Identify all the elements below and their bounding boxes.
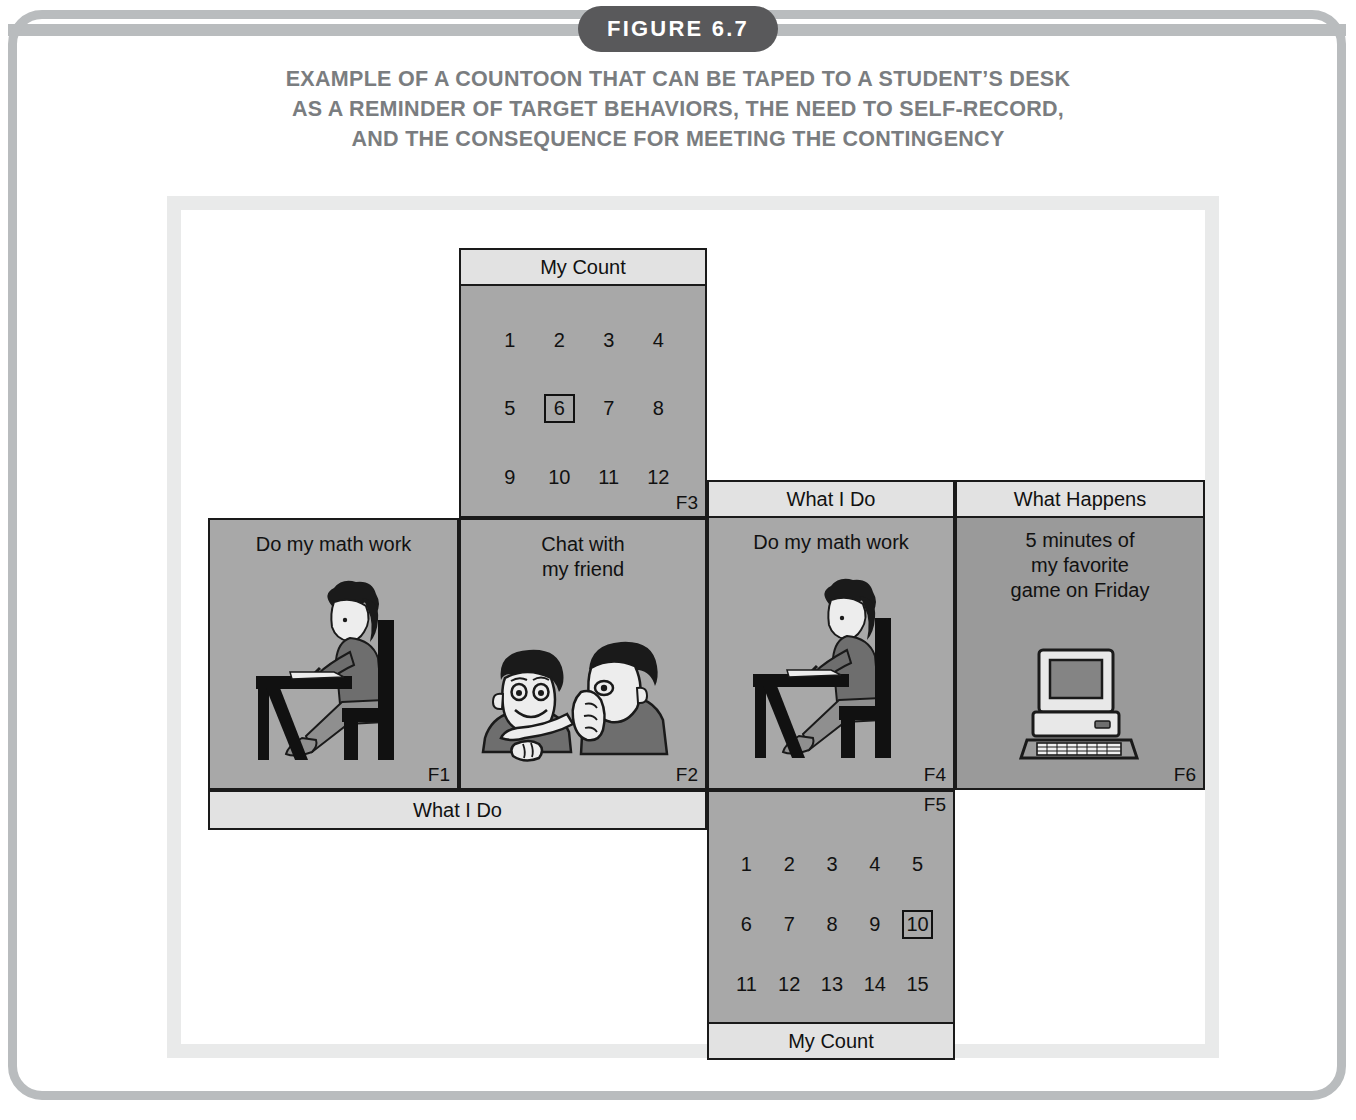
strip-what-i-do-label: What I Do (413, 799, 502, 822)
panel-f6-title-line-3: game on Friday (957, 578, 1203, 603)
panel-f3-band-label: My Count (540, 256, 626, 279)
caption-line-3: AND THE CONSEQUENCE FOR MEETING THE CONT… (120, 124, 1236, 154)
panel-f2-title-line-1: Chat with (461, 532, 705, 557)
caption-line-2: AS A REMINDER OF TARGET BEHAVIORS, THE N… (120, 94, 1236, 124)
count-cell: 4 (641, 325, 675, 355)
count-cell: 2 (542, 325, 576, 355)
panel-f1-code: F1 (428, 764, 450, 786)
panel-f4-code: F4 (924, 764, 946, 786)
panel-f6-band: What Happens (957, 482, 1203, 518)
panel-f4-band: What I Do (709, 482, 953, 518)
panel-f1-title-text: Do my math work (256, 533, 412, 555)
count-cell: 7 (592, 394, 626, 424)
panel-f2: Chat with my friend (459, 518, 707, 790)
panel-f4-title-text: Do my math work (753, 531, 909, 553)
count-cell: 10 (542, 463, 576, 493)
count-cell: 7 (772, 909, 806, 939)
figure-body: My Count 1 2 3 4 5 6 7 8 9 10 11 12 F3 (167, 196, 1219, 1058)
count-cell: 15 (901, 969, 935, 999)
panel-f2-code: F2 (676, 764, 698, 786)
count-cell: 5 (493, 394, 527, 424)
panel-f6-band-label: What Happens (1014, 488, 1146, 511)
caption-line-1: EXAMPLE OF A COUNTOON THAT CAN BE TAPED … (120, 64, 1236, 94)
panel-f5: F5 1 2 3 4 5 6 7 8 9 10 11 12 13 14 15 (707, 790, 955, 1060)
count-cell: 2 (772, 849, 806, 879)
panel-f3-band: My Count (461, 250, 705, 286)
panel-f5-code: F5 (924, 794, 946, 816)
panel-f6-title-line-2: my favorite (957, 553, 1203, 578)
panel-f2-title-line-2: my friend (461, 557, 705, 582)
panel-f3-count-grid: 1 2 3 4 5 6 7 8 9 10 11 12 (485, 306, 683, 512)
count-cell: 13 (815, 969, 849, 999)
count-cell: 12 (772, 969, 806, 999)
panel-f6-code: F6 (1174, 764, 1196, 786)
count-cell: 11 (592, 463, 626, 493)
count-cell: 3 (815, 849, 849, 879)
count-cell: 1 (493, 325, 527, 355)
count-cell: 8 (641, 394, 675, 424)
count-cell-boxed: 10 (902, 910, 933, 939)
countoon-canvas: My Count 1 2 3 4 5 6 7 8 9 10 11 12 F3 (181, 210, 1205, 1044)
figure-caption: EXAMPLE OF A COUNTOON THAT CAN BE TAPED … (120, 64, 1236, 154)
panel-f5-band: My Count (709, 1022, 953, 1058)
count-cell: 3 (592, 325, 626, 355)
count-cell: 9 (493, 463, 527, 493)
panel-f1: Do my math work (208, 518, 459, 790)
panel-f4-band-label: What I Do (787, 488, 876, 511)
count-cell: 6 (729, 909, 763, 939)
count-cell: 11 (729, 969, 763, 999)
figure-badge: FIGURE 6.7 (578, 6, 778, 52)
panel-f3: My Count 1 2 3 4 5 6 7 8 9 10 11 12 F3 (459, 248, 707, 518)
panel-f3-code: F3 (676, 492, 698, 514)
count-cell: 12 (641, 463, 675, 493)
strip-what-i-do: What I Do (208, 790, 707, 830)
panel-f6-title-line-1: 5 minutes of (957, 528, 1203, 553)
count-cell: 5 (901, 849, 935, 879)
count-cell: 1 (729, 849, 763, 879)
count-cell: 9 (858, 909, 892, 939)
panel-f2-title: Chat with my friend (461, 532, 705, 582)
panel-f4: What I Do Do my math work (707, 480, 955, 790)
panel-f4-title: Do my math work (709, 530, 953, 555)
panel-f6-title: 5 minutes of my favorite game on Friday (957, 528, 1203, 603)
panel-f1-title: Do my math work (210, 532, 457, 557)
panel-f6: What Happens 5 minutes of my favorite ga… (955, 480, 1205, 790)
count-cell: 4 (858, 849, 892, 879)
count-cell-boxed: 6 (544, 394, 575, 423)
panel-f5-band-label: My Count (788, 1030, 874, 1053)
count-cell: 8 (815, 909, 849, 939)
panel-f5-count-grid: 1 2 3 4 5 6 7 8 9 10 11 12 13 14 15 (725, 834, 939, 1014)
count-cell: 14 (858, 969, 892, 999)
